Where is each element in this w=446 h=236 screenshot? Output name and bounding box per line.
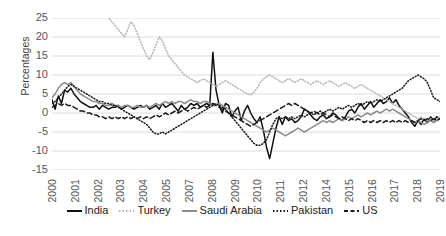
y-tick-label: -15 <box>22 164 48 175</box>
y-axis-tick-labels: 2520151050-5-10-15 <box>20 0 48 236</box>
legend-label: India <box>85 205 109 216</box>
y-tick-label: 5 <box>22 88 48 99</box>
plot-area <box>52 18 440 170</box>
x-tick-label: 2012 <box>298 179 309 202</box>
y-tick-label: 0 <box>22 107 48 118</box>
plot-svg <box>52 18 440 170</box>
legend-swatch-icon <box>119 206 134 216</box>
legend-label: Saudi Arabia <box>200 205 262 216</box>
x-tick-label: 2008 <box>206 179 217 202</box>
legend-swatch-icon <box>182 206 197 216</box>
x-tick-label: 2005 <box>161 179 172 202</box>
x-tick-label: 2003 <box>115 179 126 202</box>
y-tick-label: -10 <box>22 145 48 156</box>
x-tick-label: 2014 <box>320 179 331 202</box>
legend-label: Turkey <box>137 205 170 216</box>
series-line-pakistan <box>52 75 440 145</box>
legend-swatch-icon <box>344 206 359 216</box>
legend-item-india[interactable]: India <box>67 205 109 216</box>
x-tick-label: 2007 <box>183 179 194 202</box>
x-tick-label: 2017 <box>389 179 400 202</box>
x-tick-label: 2009 <box>229 179 240 202</box>
legend-swatch-icon <box>273 206 288 216</box>
x-tick-label: 2004 <box>138 179 149 202</box>
y-tick-label: 10 <box>22 69 48 80</box>
x-tick-label: 2019 <box>435 179 446 202</box>
y-tick-label: 20 <box>22 31 48 42</box>
legend-item-turkey[interactable]: Turkey <box>119 205 170 216</box>
y-tick-label: 15 <box>22 50 48 61</box>
x-tick-label: 2001 <box>69 179 80 202</box>
legend-swatch-icon <box>67 206 82 216</box>
x-tick-label: 2016 <box>366 179 377 202</box>
x-tick-label: 2011 <box>275 179 286 202</box>
x-tick-label: 2000 <box>47 179 58 202</box>
x-axis-tick-labels: 2000200120022003200420052007200820092010… <box>52 172 440 202</box>
x-tick-label: 2015 <box>343 179 354 202</box>
legend-item-us[interactable]: US <box>344 205 377 216</box>
y-tick-label: -5 <box>22 126 48 137</box>
legend-item-pakistan[interactable]: Pakistan <box>273 205 333 216</box>
x-tick-label: 2018 <box>412 179 423 202</box>
x-tick-label: 2002 <box>92 179 103 202</box>
chart-legend: IndiaTurkeySaudi ArabiaPakistanUS <box>0 205 444 216</box>
legend-item-saudi-arabia[interactable]: Saudi Arabia <box>182 205 262 216</box>
legend-label: US <box>362 205 377 216</box>
legend-label: Pakistan <box>291 205 333 216</box>
x-tick-label: 2010 <box>252 179 263 202</box>
y-tick-label: 25 <box>22 12 48 23</box>
